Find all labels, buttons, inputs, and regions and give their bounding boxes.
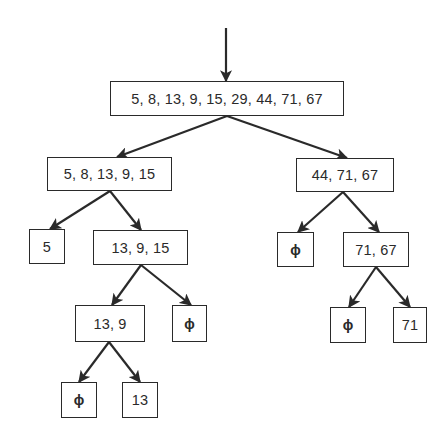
leaf-node-13: 13: [122, 382, 158, 418]
empty-set-node: ϕ: [330, 307, 366, 343]
edge-arrow-root-to-r: [227, 116, 347, 158]
left-subset-node: 5, 8, 13, 9, 15: [47, 157, 172, 191]
edge-arrow-r-to-rr: [343, 192, 379, 232]
edge-arrow-rr-to-rrr: [376, 267, 410, 307]
edge-arrow-r-to-rl: [298, 192, 343, 232]
edge-arrow-lrl-to-lrll: [79, 342, 109, 382]
edge-arrow-root-to-l: [117, 116, 227, 157]
leaf-node-5: 5: [29, 229, 65, 264]
subset-node-13-9: 13, 9: [75, 305, 145, 342]
empty-set-node: ϕ: [172, 305, 207, 342]
right-subset-node: 44, 71, 67: [296, 158, 394, 192]
tree-edges: [0, 0, 448, 447]
edge-arrow-lrl-to-lrlr: [109, 342, 140, 382]
empty-set-node: ϕ: [277, 232, 314, 267]
subset-node-13-9-15: 13, 9, 15: [93, 230, 188, 265]
edge-arrow-l-to-lr: [110, 191, 141, 230]
empty-set-node: ϕ: [61, 382, 97, 418]
leaf-node-71: 71: [393, 307, 427, 343]
edge-arrow-rr-to-rrl: [349, 267, 376, 307]
edge-arrow-lr-to-lrl: [112, 265, 141, 305]
root-node: 5, 8, 13, 9, 15, 29, 44, 71, 67: [110, 81, 344, 116]
subset-node-71-67: 71, 67: [343, 232, 409, 267]
edge-arrow-lr-to-lrr: [141, 265, 191, 305]
partition-tree-diagram: 5, 8, 13, 9, 15, 29, 44, 71, 67 5, 8, 13…: [0, 0, 448, 447]
edge-arrow-l-to-ll: [50, 191, 110, 229]
